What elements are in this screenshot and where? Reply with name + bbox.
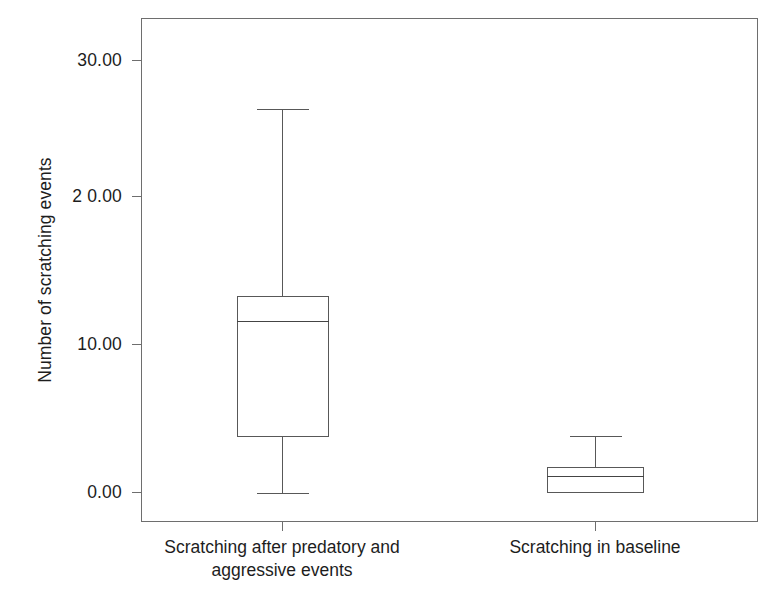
y-axis-title: Number of scratching events [30, 18, 60, 522]
y-tick-label-30: 30.00 [77, 50, 122, 71]
x-tick-label-line-1: Scratching after predatory and [117, 536, 447, 559]
upper-whisker-cap [570, 436, 622, 437]
lower-whisker-cap [257, 493, 309, 494]
upper-whisker-line [595, 436, 596, 467]
x-tick-label-line-1: Scratching in baseline [445, 536, 745, 559]
x-tick-mark-2 [595, 522, 596, 531]
y-tick-label-0: 0.00 [87, 482, 122, 503]
box-iqr[interactable] [237, 296, 329, 437]
x-tick-mark-1 [282, 522, 283, 531]
upper-whisker-line [282, 109, 283, 296]
plot-area [141, 18, 758, 522]
y-tick-mark-20 [132, 196, 141, 197]
y-tick-label-10: 10.00 [77, 334, 122, 355]
y-tick-mark-30 [132, 60, 141, 61]
boxplot-figure: Number of scratching events 30.00 2 0.00… [0, 0, 775, 610]
y-tick-label-20: 2 0.00 [72, 186, 122, 207]
x-tick-label-line-2: aggressive events [117, 559, 447, 582]
box-iqr[interactable] [547, 467, 644, 493]
x-tick-label-baseline: Scratching in baseline [445, 536, 745, 559]
lower-whisker-line [282, 437, 283, 493]
median-line [547, 476, 644, 477]
upper-whisker-cap [257, 109, 309, 110]
median-line [237, 321, 329, 322]
x-tick-label-predatory-aggressive: Scratching after predatory and aggressiv… [117, 536, 447, 583]
y-tick-mark-0 [132, 492, 141, 493]
y-tick-mark-10 [132, 344, 141, 345]
